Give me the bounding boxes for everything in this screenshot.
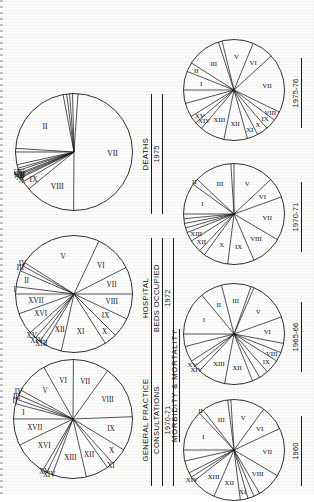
caption-title: HOSPITAL: [142, 238, 152, 358]
group-label-morbidity-mortality: MORBIDITY & MORTALITY: [170, 329, 179, 442]
svg-text:VIII: VIII: [51, 182, 65, 191]
svg-text:VI: VI: [59, 377, 67, 385]
caption-subtitle: CONSULTATIONS: [153, 354, 163, 486]
svg-text:XII: XII: [225, 480, 235, 487]
svg-text:XVII: XVII: [28, 297, 44, 305]
svg-text:XI: XI: [77, 328, 85, 336]
svg-text:VII: VII: [80, 378, 91, 386]
svg-text:VII: VII: [107, 281, 118, 289]
pie-chart-hospital-1972: IIIIIIIVVVIVIIVIIIIXXXIXIIXIIIXIVXVXVIXV…: [14, 234, 134, 354]
svg-text:IX: IX: [235, 244, 242, 251]
svg-text:XV: XV: [187, 361, 197, 368]
svg-text:X: X: [219, 241, 224, 248]
svg-text:XV: XV: [27, 332, 38, 340]
svg-text:II: II: [194, 67, 199, 74]
pie-chart-deaths-1975: IIVIIVIIIIXXXIXIIXIIIXIV: [14, 92, 134, 212]
svg-text:X: X: [109, 447, 115, 455]
svg-text:III: III: [218, 416, 226, 423]
svg-text:XV: XV: [195, 112, 205, 119]
svg-text:XI: XI: [239, 488, 247, 495]
caption-subtitle: BEDS OCCUPIED: [153, 238, 163, 358]
svg-text:VII: VII: [107, 149, 118, 158]
svg-text:IX: IX: [107, 425, 115, 433]
svg-text:VI: VI: [97, 262, 105, 270]
caption-mm-1970-71: 1970-71: [292, 182, 303, 252]
svg-text:III: III: [210, 60, 218, 67]
svg-text:XVII: XVII: [27, 424, 43, 432]
svg-text:XII: XII: [232, 364, 242, 371]
svg-text:V: V: [61, 253, 67, 261]
svg-text:XIII: XIII: [213, 360, 225, 367]
svg-text:II: II: [24, 277, 29, 285]
svg-text:XII: XII: [230, 120, 240, 127]
svg-text:X: X: [102, 328, 108, 336]
svg-text:XII: XII: [55, 326, 66, 334]
svg-text:VIII: VIII: [101, 396, 114, 404]
pie-chart-mm-1960: IIIIIIVVIVIIVIIIXIXIIXIIIXIV: [182, 398, 286, 502]
caption-deaths-1975: DEATHS 1975: [142, 94, 164, 214]
pie-chart-mm-1970-71: IIIIIIVVIVIIVIIIIXXXIIXIII: [182, 162, 286, 266]
svg-text:XII: XII: [84, 451, 95, 459]
svg-text:VI: VI: [259, 193, 267, 200]
svg-text:V: V: [241, 414, 246, 421]
svg-text:II: II: [198, 407, 203, 414]
svg-text:XI: XI: [246, 126, 254, 133]
caption-year: 1970-71: [292, 182, 302, 252]
svg-text:VII: VII: [262, 214, 272, 221]
svg-text:XV: XV: [39, 468, 50, 476]
svg-text:IX: IX: [261, 115, 268, 122]
svg-text:V: V: [234, 53, 239, 60]
svg-text:V: V: [245, 180, 250, 187]
caption-title: GENERAL PRACTICE: [142, 354, 152, 486]
svg-text:II: II: [217, 301, 222, 308]
svg-text:VIII: VIII: [105, 298, 118, 306]
svg-text:V: V: [256, 308, 261, 315]
svg-text:XVI: XVI: [34, 310, 47, 318]
pie-chart-mm-1965-66: IIIIIIVVIVIIIIXXIIXIIIXIVXV: [182, 282, 286, 386]
svg-text:X: X: [255, 122, 260, 129]
caption-mm-1975-76: 1975-76: [292, 58, 303, 128]
svg-text:XIII: XIII: [64, 454, 77, 462]
svg-text:II: II: [43, 122, 49, 131]
scan-edge-artifact: [0, 0, 3, 494]
svg-text:VII: VII: [262, 82, 272, 89]
svg-text:VII: VII: [263, 448, 273, 455]
svg-text:II: II: [192, 178, 197, 185]
svg-text:VI: VI: [256, 425, 264, 432]
pie-chart-gp-1970-71: IIIIIIIVVVIVIIVIIIIXXXIXIIXIIIXIVXVXVIXV…: [12, 358, 134, 480]
svg-text:XI: XI: [107, 462, 115, 470]
svg-text:IX: IX: [263, 358, 270, 365]
svg-text:XVI: XVI: [38, 442, 51, 450]
svg-text:VIII: VIII: [252, 470, 264, 477]
caption-mm-1965-66: 1965-66: [292, 302, 303, 372]
svg-text:IX: IX: [102, 312, 110, 320]
pie-chart-mm-1975-76: IIIIIIVVIVIIVIIIIXXXIXIIXIIIXIVXV: [182, 38, 286, 142]
svg-text:VI: VI: [264, 328, 272, 335]
svg-text:IV: IV: [15, 388, 23, 396]
svg-text:VIII: VIII: [250, 236, 262, 243]
svg-text:XIV: XIV: [186, 476, 198, 483]
caption-year: 1975: [153, 94, 163, 214]
caption-mm-1960: 1960: [292, 416, 303, 486]
caption-year: 1960: [292, 416, 302, 486]
caption-year: 1975-76: [292, 58, 302, 128]
svg-text:XIII: XIII: [208, 473, 220, 480]
svg-text:XII: XII: [197, 238, 207, 245]
svg-text:III: III: [232, 297, 240, 304]
svg-text:V: V: [43, 387, 49, 395]
caption-title: DEATHS: [142, 94, 152, 214]
svg-text:III: III: [216, 180, 224, 187]
caption-year: 1965-66: [292, 302, 302, 372]
svg-text:XIII: XIII: [214, 116, 226, 123]
svg-text:VI: VI: [249, 59, 257, 66]
